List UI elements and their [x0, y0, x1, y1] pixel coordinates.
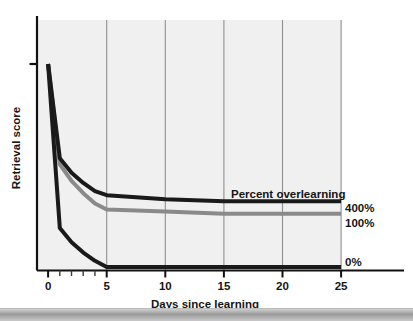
x-tick-label-10: 10	[159, 280, 172, 292]
x-tick-label-15: 15	[218, 280, 231, 292]
series-label-0: 0%	[345, 256, 362, 268]
series-label-100: 100%	[345, 217, 374, 229]
footer-band	[0, 309, 413, 321]
x-tick-label-0: 0	[45, 280, 51, 292]
percent-overlearning-annotation: Percent overlearning	[231, 188, 345, 200]
y-axis-title: Retrieval score	[10, 107, 22, 189]
x-tick-label-25: 25	[335, 280, 348, 292]
x-tick-label-5: 5	[103, 280, 110, 292]
series-label-400: 400%	[345, 202, 374, 214]
forgetting-curve-chart: 0 5 10 15 20 25 Days since learning Retr…	[0, 0, 413, 321]
plot-area-background	[37, 20, 341, 270]
x-tick-label-20: 20	[276, 280, 289, 292]
chart-figure: 0 5 10 15 20 25 Days since learning Retr…	[0, 0, 413, 321]
